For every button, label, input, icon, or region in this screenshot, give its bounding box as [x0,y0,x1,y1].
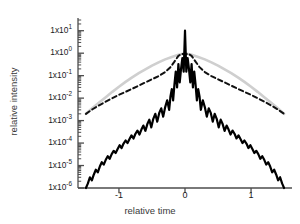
x-tick-label: -1 [107,190,131,200]
y-axis-label: relative intensity [8,42,19,162]
y-tick-mantissa: 1x10 [50,25,68,35]
x-tick-label: 0 [173,190,197,200]
y-tick-mantissa: 1x10 [48,160,66,170]
y-tick-label: 1x101 [20,25,72,35]
y-tick-label: 1x10-2 [20,92,72,102]
y-tick-label: 1x100 [20,47,72,57]
x-axis-label: relative time [0,205,300,216]
y-tick-exponent: -3 [66,113,72,120]
y-tick-mantissa: 1x10 [50,47,68,57]
y-tick-mantissa: 1x10 [48,115,66,125]
y-tick-label: 1x10-3 [20,115,72,125]
y-tick-exponent: -5 [66,158,72,165]
y-tick-mantissa: 1x10 [48,137,66,147]
y-tick-mantissa: 1x10 [48,182,66,192]
y-tick-exponent: -1 [66,68,72,75]
y-tick-label: 1x10-4 [20,137,72,147]
series-layer [86,31,284,188]
y-tick-label: 1x10-1 [20,70,72,80]
x-tick-label: 1 [239,190,263,200]
series-measured-pulse [86,31,284,188]
y-tick-label: 1x10-5 [20,160,72,170]
y-tick-mantissa: 1x10 [48,70,66,80]
y-tick-label: 1x10-6 [20,182,72,192]
y-tick-exponent: -4 [66,135,72,142]
figure-container: 1x1011x1001x10-11x10-21x10-31x10-41x10-5… [0,0,300,224]
y-tick-exponent: -2 [66,90,72,97]
y-tick-exponent: 0 [68,45,72,52]
y-tick-mantissa: 1x10 [48,92,66,102]
y-tick-exponent: 1 [68,23,72,30]
y-tick-label-group: 1x1011x1001x10-11x10-21x10-31x10-41x10-5… [20,0,72,224]
y-tick-exponent: -6 [66,180,72,187]
